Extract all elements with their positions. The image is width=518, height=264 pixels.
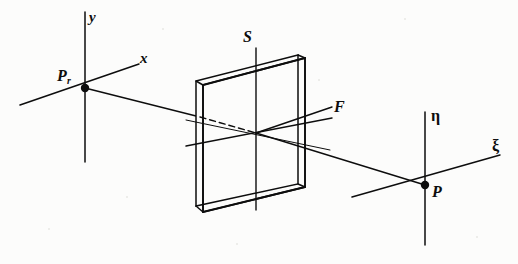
optics-ray-diagram: y x Pr S F η ξ P: [0, 0, 518, 264]
diagram-canvas: [0, 0, 518, 264]
label-x-axis: x: [140, 51, 148, 66]
xi-axis-line: [352, 155, 500, 197]
label-reference-point: Pr: [57, 68, 71, 86]
label-focal-point: F: [334, 99, 345, 115]
label-image-point: P: [432, 184, 442, 200]
plate-edge-bottom-left-depth: [196, 206, 203, 212]
reference-point-marker: [81, 84, 89, 92]
label-reference-point-base: P: [57, 67, 67, 84]
label-y-axis: y: [89, 10, 96, 25]
label-xi-axis: ξ: [492, 138, 499, 154]
label-eta-axis: η: [431, 108, 440, 124]
label-reference-point-subscript: r: [67, 75, 71, 86]
image-point-marker: [421, 181, 429, 189]
label-plate: S: [243, 29, 252, 45]
incident-ray: [85, 88, 200, 117]
left-x-axis-line: [20, 64, 139, 105]
